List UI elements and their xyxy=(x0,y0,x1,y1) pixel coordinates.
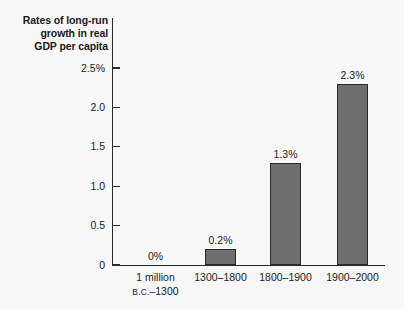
y-tick-label: 1.0 xyxy=(0,181,105,192)
y-tick-label: 2.5% xyxy=(0,63,105,74)
x-axis-label-line2: B.C.–1300 xyxy=(106,285,206,300)
y-tick-label: 0 xyxy=(0,260,105,271)
bar-group: 2.3% xyxy=(337,18,368,265)
bar-value-label: 0% xyxy=(116,251,195,262)
bar-value-label: 1.3% xyxy=(246,149,325,160)
y-tick-label: 2.0 xyxy=(0,102,105,113)
x-axis-label: 1900–2000 xyxy=(303,271,403,285)
x-axis-label-line1: 1 million xyxy=(136,271,175,283)
plot-area: 0%0.2%1.3%2.3% xyxy=(113,18,385,265)
bar-value-label: 2.3% xyxy=(313,70,392,81)
bar-chart: Rates of long-run growth in real GDP per… xyxy=(0,0,404,309)
bar-value-label: 0.2% xyxy=(181,235,260,246)
bar-group: 0.2% xyxy=(205,18,236,265)
x-axis-label-era: B.C. xyxy=(132,287,149,297)
y-tick-label: 0.5 xyxy=(0,220,105,231)
x-axis-label-line1: 1900–2000 xyxy=(326,271,379,283)
bar-group: 1.3% xyxy=(270,18,301,265)
bar xyxy=(205,249,236,265)
y-tick-label: 1.5 xyxy=(0,141,105,152)
bar-group: 0% xyxy=(140,18,171,265)
bar xyxy=(270,163,301,265)
x-axis-line xyxy=(112,265,385,266)
x-axis-label-year: –1300 xyxy=(149,285,178,297)
bar xyxy=(337,84,368,265)
chart-title: Rates of long-run growth in real GDP per… xyxy=(4,14,108,54)
